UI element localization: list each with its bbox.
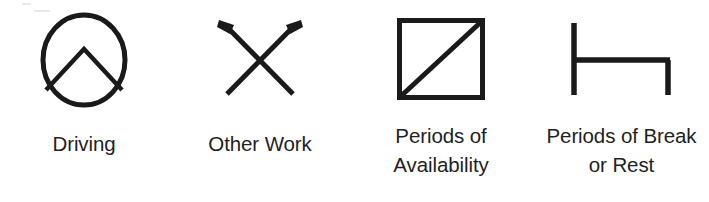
- legend-item-driving: Driving: [0, 0, 168, 202]
- legend-label-availability: Periods of Availability: [393, 121, 488, 179]
- legend-label-line: Availability: [393, 150, 488, 179]
- legend-item-availability: Periods of Availability: [348, 0, 534, 202]
- tachograph-symbol-legend: Driving Other Work: [0, 0, 709, 202]
- crossed-hammers-icon: [172, 0, 348, 118]
- square-diagonal-icon: [348, 0, 534, 118]
- legend-item-other-work: Other Work: [168, 0, 348, 202]
- driving-circle-icon: [0, 0, 168, 118]
- legend-label-driving: Driving: [52, 129, 115, 158]
- legend-label-break-rest: Periods of Break or Rest: [547, 121, 697, 179]
- legend-label-line: Other Work: [208, 129, 311, 158]
- legend-label-other-work: Other Work: [208, 129, 311, 158]
- legend-label-line: Driving: [52, 129, 115, 158]
- bed-break-rest-icon: [534, 0, 709, 118]
- legend-label-line: Periods of Break: [547, 121, 697, 150]
- legend-item-break-rest: Periods of Break or Rest: [534, 0, 709, 202]
- legend-label-line: Periods of: [393, 121, 488, 150]
- legend-label-line: or Rest: [547, 150, 697, 179]
